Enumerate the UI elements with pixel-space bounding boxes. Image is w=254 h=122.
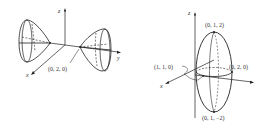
left-sheet-dash-2 xyxy=(32,24,35,52)
ellipsoid-meridian xyxy=(210,32,215,112)
left-point-label: (0, 2, 0) xyxy=(48,66,67,73)
left-x-label: x xyxy=(25,72,29,78)
ellipsoid-equator-back xyxy=(196,68,232,73)
left-sheet-rim xyxy=(22,20,32,62)
right-vertex-point xyxy=(79,46,81,48)
right-z-label: z xyxy=(187,10,191,16)
ellipsoid-outline xyxy=(196,32,232,112)
bottom-point xyxy=(213,111,215,113)
left-y-label: y xyxy=(116,55,120,61)
y-point xyxy=(231,71,233,73)
x-point xyxy=(202,75,204,77)
left-sheet-dash xyxy=(22,37,50,43)
top-point-label: (0, 1, 2) xyxy=(205,22,224,29)
right-x-label: x xyxy=(159,83,163,89)
right-sheet xyxy=(80,29,111,71)
left-figure xyxy=(19,8,121,75)
left-z-label: z xyxy=(57,8,61,14)
label-leader xyxy=(70,49,79,63)
x-point-label: (1, 1, 0) xyxy=(154,64,173,71)
y-point-label: (0, 2, 0) xyxy=(229,64,248,71)
z-arrow-icon xyxy=(64,8,66,12)
figure-canvas: z y x (0, 2, 0) z x (0, 1, 2) (1, 1, 0) … xyxy=(0,0,254,122)
ellipsoid-meridian-back xyxy=(214,32,219,112)
z-arrow-icon xyxy=(194,12,196,16)
left-vertex-point xyxy=(49,42,51,44)
y-arrow-icon xyxy=(250,81,254,84)
y-arrow-icon xyxy=(117,51,121,54)
bottom-point-label: (0, 1, −2) xyxy=(202,115,224,122)
y-axis-negative xyxy=(50,43,65,45)
label-leader-tip xyxy=(198,77,202,80)
top-point xyxy=(213,31,215,33)
right-sheet-dash xyxy=(80,44,108,47)
x-arrow-icon xyxy=(165,81,169,84)
x-axis xyxy=(167,60,214,83)
